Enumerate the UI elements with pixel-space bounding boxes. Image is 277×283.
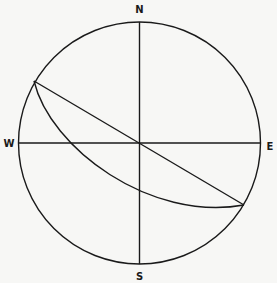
stereonet-diagram: N S W E: [0, 0, 277, 283]
north-label: N: [135, 4, 143, 15]
east-label: E: [267, 141, 274, 152]
west-label: W: [3, 138, 14, 149]
south-label: S: [136, 271, 143, 282]
